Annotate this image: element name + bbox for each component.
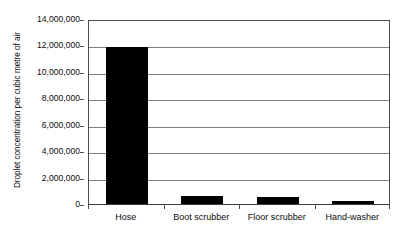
y-axis-tick-mark (80, 205, 84, 206)
y-axis-tick-label: 6,000,000 (42, 121, 80, 130)
y-axis-tick-label: 12,000,000 (37, 41, 80, 50)
x-axis-tick-labels: HoseBoot scrubberFloor scrubberHand-wash… (88, 211, 390, 229)
x-axis-tick-marks (88, 204, 390, 210)
bar-slot (89, 21, 165, 204)
bar-slot (165, 21, 241, 204)
bar-slot (316, 21, 392, 204)
y-axis-tick-mark (80, 152, 84, 153)
y-axis-tick-mark (80, 126, 84, 127)
y-axis-tick-label: 4,000,000 (42, 147, 80, 156)
bars-group (89, 21, 389, 204)
y-axis-tick-label: 2,000,000 (42, 174, 80, 183)
bar[interactable] (257, 197, 299, 204)
x-axis-tick-mark (88, 204, 89, 209)
x-axis-tick-mark (164, 204, 165, 209)
x-axis-category-label: Floor scrubber (248, 211, 306, 223)
x-axis-category-label: Boot scrubber (173, 211, 229, 223)
y-axis-tick-mark (80, 73, 84, 74)
bar-slot (240, 21, 316, 204)
plot-area (88, 20, 390, 205)
y-axis-tick-labels: 14,000,00012,000,00010,000,0008,000,0006… (16, 0, 84, 239)
x-axis-tick-mark (389, 204, 390, 209)
y-axis-tick-label: 8,000,000 (42, 94, 80, 103)
y-axis-tick-mark (80, 99, 84, 100)
bar[interactable] (181, 196, 223, 204)
y-axis-tick-mark (80, 46, 84, 47)
x-axis-category-label: Hose (115, 211, 136, 223)
bar-chart: Droplet concentration per cubic metre of… (0, 0, 407, 239)
x-axis-category-label: Hand-washer (325, 211, 379, 223)
y-axis-tick-label: 10,000,000 (37, 68, 80, 77)
x-axis-tick-mark (315, 204, 316, 209)
y-axis-tick-mark (80, 179, 84, 180)
x-axis-tick-mark (239, 204, 240, 209)
y-axis-tick-label: 14,000,000 (37, 15, 80, 24)
y-axis-tick-mark (80, 20, 84, 21)
bar[interactable] (106, 47, 148, 204)
